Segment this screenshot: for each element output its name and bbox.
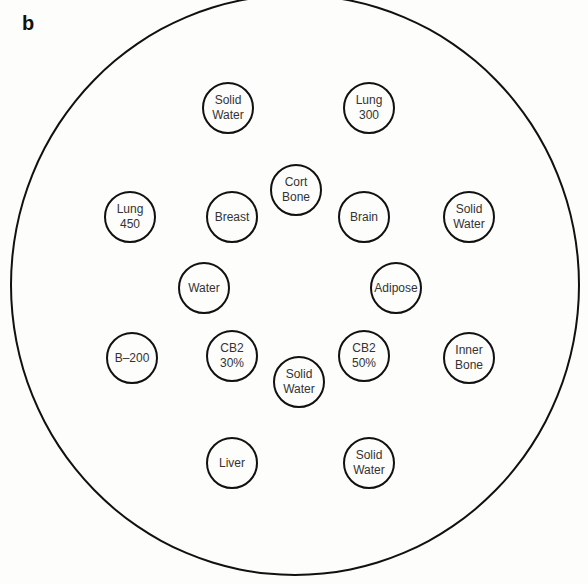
insert-label: CB2 50% xyxy=(352,341,376,371)
panel-label: b xyxy=(22,12,34,35)
insert-label: CB2 30% xyxy=(220,341,244,371)
insert-label: Solid Water xyxy=(453,202,485,232)
insert-circle: Brain xyxy=(338,191,390,243)
insert-label: B–200 xyxy=(115,351,150,366)
insert-circle: Adipose xyxy=(370,262,422,314)
insert-circle: Solid Water xyxy=(273,356,325,408)
insert-label: Liver xyxy=(219,456,245,471)
phantom-outline xyxy=(10,0,580,576)
insert-label: Breast xyxy=(215,210,250,225)
insert-label: Brain xyxy=(350,210,378,225)
insert-label: Cort Bone xyxy=(282,175,310,205)
insert-circle: Solid Water xyxy=(443,191,495,243)
insert-circle: Cort Bone xyxy=(270,164,322,216)
insert-circle: Inner Bone xyxy=(443,332,495,384)
insert-label: Inner Bone xyxy=(455,343,483,373)
insert-label: Solid Water xyxy=(212,93,244,123)
insert-circle: B–200 xyxy=(106,332,158,384)
insert-label: Solid Water xyxy=(353,448,385,478)
insert-label: Solid Water xyxy=(283,367,315,397)
insert-circle: Lung 450 xyxy=(104,191,156,243)
insert-circle: Water xyxy=(178,262,230,314)
insert-circle: Breast xyxy=(206,191,258,243)
insert-label: Water xyxy=(188,281,220,296)
insert-label: Adipose xyxy=(374,281,417,296)
insert-circle: Solid Water xyxy=(202,82,254,134)
insert-label: Lung 300 xyxy=(356,93,383,123)
insert-circle: Solid Water xyxy=(343,437,395,489)
insert-circle: CB2 50% xyxy=(338,330,390,382)
insert-circle: Liver xyxy=(206,437,258,489)
insert-label: Lung 450 xyxy=(117,202,144,232)
insert-circle: CB2 30% xyxy=(206,330,258,382)
insert-circle: Lung 300 xyxy=(343,82,395,134)
